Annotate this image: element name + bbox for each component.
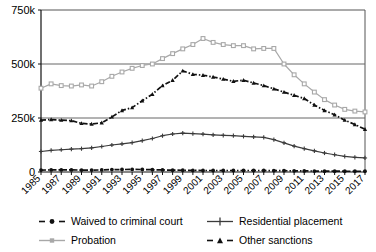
data-point-marker (312, 169, 316, 173)
data-point-marker (110, 168, 114, 172)
data-point-marker (150, 136, 154, 140)
data-point-marker (59, 168, 63, 172)
data-point-marker (282, 62, 286, 66)
data-point-marker (171, 168, 175, 172)
data-point-marker (69, 84, 73, 88)
legend-swatch-residential-icon (206, 216, 234, 227)
x-tick-label: 2005 (221, 172, 245, 196)
x-tick-label: 1991 (80, 172, 104, 196)
data-point-marker (130, 168, 134, 172)
data-point-marker (49, 168, 53, 172)
data-point-marker (130, 141, 134, 145)
data-point-marker (69, 168, 73, 172)
data-point-marker (333, 169, 337, 173)
x-tick-label: 2009 (262, 172, 286, 196)
data-point-marker (110, 74, 114, 78)
data-point-marker (262, 169, 266, 173)
legend-label-probation: Probation (71, 235, 116, 246)
chart-legend: Waived to criminal court Residential pla… (38, 212, 368, 250)
x-tick-label: 2011 (283, 172, 306, 195)
data-point-marker (150, 62, 154, 66)
y-tick-label: 500k (11, 58, 35, 70)
legend-item-other-sanctions: Other sanctions (206, 235, 368, 246)
series-other-sanctions (39, 69, 367, 131)
data-point-marker (191, 131, 195, 135)
x-tick-label: 2015 (323, 172, 347, 196)
data-point-marker (80, 168, 84, 172)
data-point-marker (343, 169, 347, 173)
data-point-marker (201, 169, 205, 173)
data-point-marker (140, 64, 144, 68)
y-axis-tick-labels: 0250k500k750k (11, 4, 41, 178)
data-point-marker (171, 78, 175, 82)
data-point-marker (39, 168, 43, 172)
data-point-marker (150, 92, 154, 96)
x-tick-label: 2003 (201, 172, 225, 196)
x-tick-label: 1987 (39, 172, 63, 196)
x-tick-label: 2001 (181, 172, 205, 196)
data-point-marker (120, 142, 124, 146)
y-tick-label: 750k (11, 4, 35, 16)
x-tick-label: 1995 (120, 172, 144, 196)
series-line (41, 71, 365, 129)
data-point-marker (302, 96, 306, 100)
data-point-marker (171, 132, 175, 136)
x-tick-label: 1989 (59, 172, 83, 196)
data-point-marker (292, 144, 296, 148)
data-point-marker (221, 43, 225, 47)
data-point-marker (39, 86, 43, 90)
x-tick-label: 1997 (140, 172, 164, 196)
data-point-marker (353, 169, 357, 173)
data-point-marker (322, 151, 326, 155)
data-point-marker (150, 168, 154, 172)
data-point-marker (221, 133, 225, 137)
data-point-marker (262, 47, 266, 51)
data-point-marker (90, 168, 94, 172)
data-point-marker (160, 83, 164, 87)
legend-swatch-probation-icon (38, 235, 66, 246)
legend-item-waived-to-criminal-court: Waived to criminal court (38, 216, 206, 227)
x-tick-label: 2017 (343, 172, 367, 196)
data-point-marker (333, 153, 337, 157)
legend-swatch-other-icon (206, 235, 234, 246)
data-point-marker (49, 82, 53, 86)
data-point-marker (100, 168, 104, 172)
data-point-marker (191, 43, 195, 47)
data-point-marker (343, 107, 347, 111)
data-point-marker (211, 169, 215, 173)
series-line (41, 133, 365, 158)
data-point-marker (302, 147, 306, 151)
data-point-marker (343, 154, 347, 158)
data-point-marker (252, 169, 256, 173)
data-point-marker (292, 73, 296, 77)
data-point-marker (100, 80, 104, 84)
data-point-marker (302, 169, 306, 173)
data-point-marker (272, 47, 276, 51)
data-point-marker (333, 103, 337, 107)
data-point-marker (323, 98, 327, 102)
data-point-marker (363, 156, 367, 160)
data-point-marker (252, 135, 256, 139)
legend-swatch-waived-icon (38, 216, 66, 227)
data-point-marker (120, 70, 124, 74)
data-point-marker (312, 90, 316, 94)
data-point-marker (252, 47, 256, 51)
data-point-marker (363, 169, 367, 173)
data-point-marker (181, 47, 185, 51)
data-point-marker (292, 169, 296, 173)
data-point-marker (231, 169, 235, 173)
data-point-marker (59, 84, 63, 88)
data-point-marker (353, 155, 357, 159)
data-point-marker (282, 169, 286, 173)
data-point-marker (79, 147, 83, 151)
data-point-marker (241, 134, 245, 138)
data-point-marker (90, 146, 94, 150)
data-point-marker (171, 52, 175, 56)
data-point-marker (160, 134, 164, 138)
legend-item-residential-placement: Residential placement (206, 216, 368, 227)
data-point-marker (363, 110, 367, 114)
legend-item-probation: Probation (38, 235, 206, 246)
data-point-marker (191, 168, 195, 172)
data-point-marker (242, 44, 246, 48)
data-point-marker (211, 133, 215, 137)
